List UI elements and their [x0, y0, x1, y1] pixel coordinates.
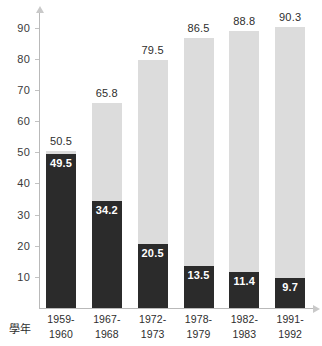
x-axis-category-line: 1991- — [263, 312, 317, 327]
bar-stack — [275, 27, 305, 308]
y-axis-tick-label: 80 — [17, 51, 30, 67]
stacked-bar-chart: 102030405060708090 50.549.565.834.279.52… — [0, 0, 322, 346]
x-axis-category-label: 1991-1992 — [263, 312, 317, 342]
bar-dark-label: 20.5 — [129, 247, 177, 260]
x-axis-line — [39, 308, 315, 309]
bar-segment-light — [229, 31, 259, 308]
y-axis-tick-mark — [35, 28, 39, 29]
y-axis-tick-mark — [35, 90, 39, 91]
x-axis-category-line: 1992 — [263, 327, 317, 342]
y-axis-tick-mark — [35, 277, 39, 278]
bar-total-label: 88.8 — [220, 15, 268, 28]
bar-stack — [229, 31, 259, 308]
y-axis-tick-mark — [35, 152, 39, 153]
bar-total-label: 90.3 — [266, 11, 314, 24]
y-axis-tick-mark — [35, 215, 39, 216]
bar-total-label: 86.5 — [175, 22, 223, 35]
y-axis-tick-mark — [35, 121, 39, 122]
y-axis-tick-mark — [35, 183, 39, 184]
y-axis-tick-label: 20 — [17, 238, 30, 254]
bar-dark-label: 49.5 — [37, 157, 85, 170]
bar-dark-label: 13.5 — [175, 269, 223, 282]
y-axis-tick-mark — [35, 246, 39, 247]
bar-stack — [138, 60, 168, 308]
y-axis-tick-label: 50 — [17, 144, 30, 160]
bar-segment-light — [275, 27, 305, 308]
bar-total-label: 50.5 — [37, 135, 85, 148]
bar-dark-label: 34.2 — [83, 204, 131, 217]
y-axis-tick-mark — [35, 59, 39, 60]
y-axis-tick-label: 70 — [17, 82, 30, 98]
y-axis-tick-label: 90 — [17, 20, 30, 36]
bar-dark-label: 11.4 — [220, 275, 268, 288]
bar-stack — [184, 38, 214, 308]
bar-total-label: 79.5 — [129, 44, 177, 57]
y-axis-tick-label: 30 — [17, 207, 30, 223]
y-axis-tick-label: 40 — [17, 175, 30, 191]
plot-area: 50.549.565.834.279.520.586.513.588.811.4… — [40, 12, 315, 308]
x-axis-label-container: 1959-19601967-19681972-19731978-19791982… — [40, 312, 315, 346]
bar-segment-dark — [46, 154, 76, 308]
y-axis-tick-label: 10 — [17, 269, 30, 285]
x-axis-caption: 學年 — [2, 322, 38, 336]
y-axis-tick-label: 60 — [17, 113, 30, 129]
bar-dark-label: 9.7 — [266, 281, 314, 294]
bar-stack — [46, 151, 76, 308]
bar-total-label: 65.8 — [83, 87, 131, 100]
